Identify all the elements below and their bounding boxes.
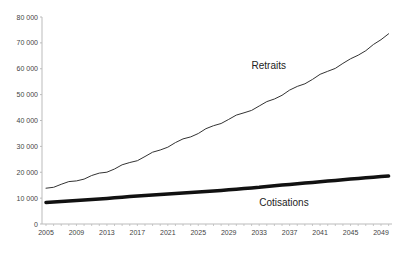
y-tick-label: 20 000 — [17, 169, 39, 176]
series-line-retraits — [46, 34, 389, 188]
x-tick-label: 2021 — [160, 229, 176, 236]
y-tick-label: 70 000 — [17, 39, 39, 46]
x-tick-label: 2029 — [221, 229, 237, 236]
series-label-cotisations: Cotisations — [259, 197, 308, 208]
y-tick-label: 30 000 — [17, 143, 39, 150]
series-label-retraits: Retraits — [252, 60, 286, 71]
y-tick-label: 40 000 — [17, 117, 39, 124]
x-tick-label: 2013 — [99, 229, 115, 236]
line-chart: 010 00020 00030 00040 00050 00060 00070 … — [0, 0, 400, 254]
x-tick-label: 2037 — [282, 229, 298, 236]
x-tick-label: 2017 — [130, 229, 146, 236]
x-tick-label: 2033 — [251, 229, 267, 236]
x-tick-label: 2005 — [38, 229, 54, 236]
series-line-cotisations — [46, 176, 389, 202]
x-tick-label: 2049 — [373, 229, 389, 236]
x-tick-label: 2025 — [190, 229, 206, 236]
x-tick-label: 2041 — [312, 229, 328, 236]
series-lines — [46, 34, 389, 203]
y-tick-label: 80 000 — [17, 14, 39, 21]
y-tick-label: 0 — [34, 221, 38, 228]
y-tick-label: 50 000 — [17, 91, 39, 98]
x-tick-label: 2045 — [343, 229, 359, 236]
x-tick-label: 2009 — [69, 229, 85, 236]
y-axis: 010 00020 00030 00040 00050 00060 00070 … — [17, 14, 42, 228]
y-tick-label: 60 000 — [17, 65, 39, 72]
y-tick-label: 10 000 — [17, 195, 39, 202]
x-axis: 2005200920132017202120252029203320372041… — [38, 224, 392, 236]
